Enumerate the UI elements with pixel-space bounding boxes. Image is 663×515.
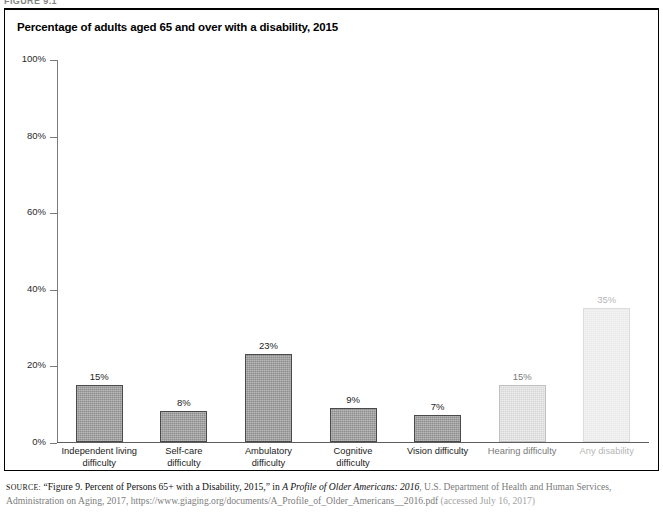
bar-group: 15%Hearing difficulty (499, 59, 546, 442)
bar[interactable] (76, 385, 123, 442)
category-label-line: Independent living (62, 446, 137, 458)
category-label: Independent livingdifficulty (62, 446, 137, 469)
bar-group: 9%Cognitivedifficulty (330, 59, 377, 442)
bar-value-label: 7% (431, 401, 445, 412)
category-label: Ambulatorydifficulty (245, 446, 292, 469)
category-label-line: Hearing difficulty (488, 446, 557, 458)
bar-value-label: 15% (513, 371, 532, 382)
figure-number: FIGURE 9.1 (4, 0, 57, 6)
bar-value-label: 15% (90, 371, 109, 382)
category-label-line: Self-care (165, 446, 202, 458)
category-label: Self-caredifficulty (165, 446, 202, 469)
source-label: SOURCE: (6, 483, 41, 492)
y-axis-tick: 100% (50, 60, 57, 61)
bar-group: 35%Any disability (583, 59, 630, 442)
source-text-part1: “Figure 9. Percent of Persons 65+ with a… (43, 481, 282, 492)
bar-group: 8%Self-caredifficulty (160, 59, 207, 442)
bar-group: 23%Ambulatorydifficulty (245, 59, 292, 442)
bar[interactable] (245, 354, 292, 442)
category-label: Any disability (580, 446, 634, 458)
chart-title: Percentage of adults aged 65 and over wi… (17, 21, 338, 33)
y-axis-tick: 0% (50, 443, 57, 444)
y-axis-tick: 40% (50, 290, 57, 291)
y-axis-tick-label: 80% (27, 130, 46, 141)
bar-value-label: 35% (597, 294, 616, 305)
y-axis-tick-label: 60% (27, 206, 46, 217)
y-axis-line (57, 60, 58, 443)
category-label-line: Any disability (580, 446, 634, 458)
y-axis-tick: 20% (50, 366, 57, 367)
bar[interactable] (330, 408, 377, 442)
source-publication-title: A Profile of Older Americans: 2016 (282, 481, 419, 492)
source-note: SOURCE: “Figure 9. Percent of Persons 65… (6, 481, 658, 507)
y-axis-tick: 80% (50, 137, 57, 138)
bar-value-label: 8% (177, 397, 191, 408)
category-label: Vision difficulty (407, 446, 468, 458)
category-label-line: difficulty (62, 458, 137, 470)
chart-plot-area: 100% 80% 60% 40% 20% 0% 15%Independent l… (57, 60, 649, 443)
y-axis-tick: 60% (50, 213, 57, 214)
y-axis-tick-label: 20% (27, 359, 46, 370)
bar[interactable] (160, 411, 207, 442)
category-label-line: difficulty (165, 458, 202, 470)
figure-frame: Percentage of adults aged 65 and over wi… (4, 8, 659, 471)
y-axis-tick-label: 0% (32, 436, 46, 447)
category-label: Cognitivedifficulty (334, 446, 373, 469)
y-axis-tick-label: 40% (27, 283, 46, 294)
bar-value-label: 23% (259, 340, 278, 351)
bar-group: 15%Independent livingdifficulty (76, 59, 123, 442)
category-label-line: difficulty (245, 458, 292, 470)
bar-group: 7%Vision difficulty (414, 59, 461, 442)
x-axis-line (57, 442, 649, 443)
y-axis-tick-label: 100% (22, 53, 46, 64)
bar[interactable] (583, 308, 630, 442)
bar[interactable] (499, 385, 546, 442)
bar-value-label: 9% (346, 394, 360, 405)
source-access-date: (accessed July 16, 2017) (441, 495, 535, 506)
bar[interactable] (414, 415, 461, 442)
category-label-line: Cognitive (334, 446, 373, 458)
category-label-line: difficulty (334, 458, 373, 470)
category-label: Hearing difficulty (488, 446, 557, 458)
category-label-line: Vision difficulty (407, 446, 468, 458)
category-label-line: Ambulatory (245, 446, 292, 458)
